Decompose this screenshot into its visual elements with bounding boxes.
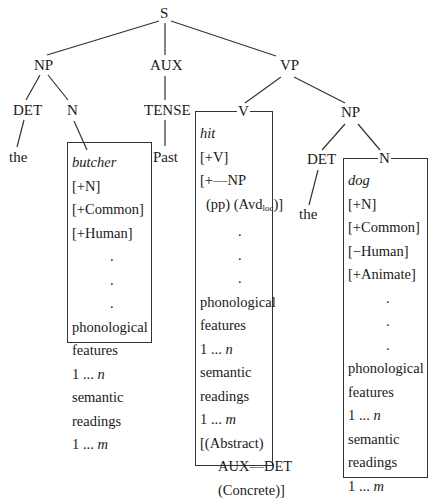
ellipsis-dot: . <box>348 310 427 334</box>
feature: [+Common] <box>72 198 151 222</box>
feature: [+Human] <box>72 222 151 246</box>
range-var: n <box>97 366 104 382</box>
word-the-subject: the <box>9 150 27 165</box>
word-the-object: the <box>299 207 317 222</box>
feature: [+Common] <box>348 216 427 240</box>
range-text: 1 ... <box>348 407 373 423</box>
sem-label: semantic <box>72 386 151 410</box>
range-var: m <box>97 436 107 452</box>
node-vp: VP <box>279 58 300 73</box>
feature: [+N] <box>348 193 427 217</box>
ellipsis-dot: . <box>72 245 151 269</box>
ellipsis-dot: . <box>200 267 272 291</box>
lexical-entry-dog: dog [+N] [+Common] [−Human] [+Animate] .… <box>343 158 428 478</box>
selection-restriction: AUX—DET <box>200 455 272 479</box>
ellipsis-dot: . <box>72 292 151 316</box>
phon-range: 1 ... n <box>200 338 272 362</box>
subcat-close: )] <box>274 196 284 212</box>
node-np-subject: NP <box>33 58 54 73</box>
sem-range: 1 ... m <box>72 433 151 457</box>
phon-label: features <box>200 314 272 338</box>
ellipsis-dot: . <box>348 287 427 311</box>
node-v: V <box>237 104 250 119</box>
range-text: 1 ... <box>200 411 225 427</box>
selection-restriction: [(Abstract) <box>200 432 272 456</box>
node-n-subject: N <box>66 103 79 118</box>
node-aux: AUX <box>149 58 184 73</box>
phon-label: phonological <box>200 291 272 315</box>
range-var: n <box>373 407 380 423</box>
ellipsis-dot: . <box>200 244 272 268</box>
node-s: S <box>159 6 169 21</box>
sem-label: readings <box>72 410 151 434</box>
range-var: m <box>373 478 383 494</box>
feature: [−Human] <box>348 240 427 264</box>
phon-label: features <box>348 381 427 405</box>
node-np-object: NP <box>340 105 361 120</box>
ellipsis-dot: . <box>200 220 272 244</box>
range-var: m <box>225 411 235 427</box>
ellipsis-dot: . <box>348 334 427 358</box>
phon-label: phonological <box>348 357 427 381</box>
ellipsis-dot: . <box>72 269 151 293</box>
selection-restriction: (Concrete)] <box>200 479 272 502</box>
subscript: loc <box>263 203 274 213</box>
range-text: 1 ... <box>72 436 97 452</box>
sem-label: semantic <box>348 428 427 452</box>
node-det-object: DET <box>306 152 337 167</box>
phon-range: 1 ... n <box>348 404 427 428</box>
range-var: n <box>225 341 232 357</box>
phon-range: 1 ... n <box>72 363 151 387</box>
feature-subcat: (pp) (Avdloc)] <box>200 193 272 221</box>
lexical-entry-butcher: butcher [+N] [+Common] [+Human] . . . ph… <box>67 142 152 343</box>
sem-label: readings <box>200 385 272 409</box>
feature: [+—NP <box>200 169 272 193</box>
node-n-object: N <box>378 151 391 166</box>
entry-word: hit <box>200 122 272 146</box>
entry-word: butcher <box>72 151 151 175</box>
sem-range: 1 ... m <box>200 408 272 432</box>
feature: [+Animate] <box>348 263 427 287</box>
subcat-text: (pp) (Avd <box>206 196 263 212</box>
phon-label: features <box>72 339 151 363</box>
range-text: 1 ... <box>200 341 225 357</box>
node-det-subject: DET <box>12 103 43 118</box>
lexical-entry-hit: hit [+V] [+—NP (pp) (Avdloc)] . . . phon… <box>195 111 273 466</box>
node-tense: TENSE <box>143 103 192 118</box>
entry-word: dog <box>348 169 427 193</box>
range-text: 1 ... <box>348 478 373 494</box>
phon-label: phonological <box>72 316 151 340</box>
word-past: Past <box>153 150 178 165</box>
feature: [+N] <box>72 175 151 199</box>
feature: [+V] <box>200 146 272 170</box>
range-text: 1 ... <box>72 366 97 382</box>
sem-range: 1 ... m <box>348 475 427 499</box>
sem-label: readings <box>348 451 427 475</box>
sem-label: semantic <box>200 361 272 385</box>
